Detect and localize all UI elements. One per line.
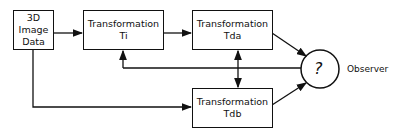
observer-label: Observer [347, 64, 388, 74]
node-line: Ti [119, 30, 127, 42]
node-line: 3D [27, 12, 40, 24]
node-line: Transformation [197, 18, 268, 30]
node-transformation-tdb: Transformation Tdb [192, 88, 273, 128]
arrow-tda-to-observer [272, 33, 306, 56]
node-line: Transformation [197, 96, 268, 108]
node-transformation-ti: Transformation Ti [83, 10, 164, 50]
node-line: Data [22, 36, 45, 48]
node-line: Tdb [224, 108, 242, 120]
node-line: Transformation [88, 18, 159, 30]
node-transformation-tda: Transformation Tda [192, 10, 273, 50]
observer-question-mark: ? [314, 59, 323, 78]
arrow-tdb-to-observer [272, 83, 306, 105]
node-line: Tda [224, 30, 242, 42]
node-3d-image-data: 3D Image Data [13, 10, 54, 50]
arrow-data-to-tdb [33, 50, 191, 107]
node-line: Image [19, 24, 49, 36]
